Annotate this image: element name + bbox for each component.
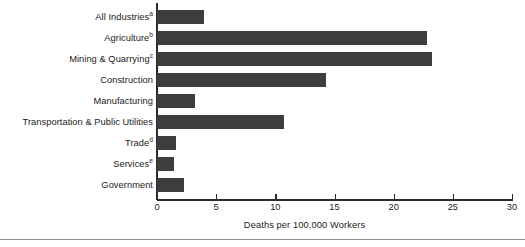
bar-chart-figure: All IndustriesaAgriculturebMining & Quar… [0,0,525,247]
x-tick-label: 30 [507,202,517,212]
x-tick-mark [512,194,513,200]
plot-area: All IndustriesaAgriculturebMining & Quar… [0,0,525,210]
category-label: Servicese [113,154,153,175]
bar-row: Agricultureb [0,28,525,49]
bar [157,178,184,192]
bar [157,115,284,129]
footnote-marker: d [149,136,153,143]
category-label: Government [101,175,153,196]
bar-row: Manufacturing [0,91,525,112]
x-tick-label: 20 [388,202,398,212]
category-label: Construction [100,70,153,91]
x-tick-label: 25 [448,202,458,212]
bar [157,94,195,108]
category-label: Manufacturing [93,91,153,112]
x-axis-title-text: Deaths per 100,000 Workers [244,220,365,230]
x-tick-label: 5 [214,202,219,212]
bar [157,136,176,150]
category-label: Traded [125,133,153,154]
category-label: Mining & Quarryingc [69,49,153,70]
bar [157,157,174,171]
bar-row: Traded [0,133,525,154]
x-tick-mark [157,194,158,200]
bar-row: Transportation & Public Utilities [0,112,525,133]
x-tick-mark [453,194,454,200]
bar [157,73,326,87]
bar-row: Servicese [0,154,525,175]
bar-row: Mining & Quarryingc [0,49,525,70]
bar-row: Government [0,175,525,196]
bar [157,10,204,24]
bar-row: Construction [0,70,525,91]
x-tick-mark [335,194,336,200]
x-tick-mark [394,194,395,200]
x-tick-mark [216,194,217,200]
x-tick-mark [275,194,276,200]
x-tick-label: 10 [270,202,280,212]
category-label: All Industriesa [95,7,153,28]
footnote-marker: b [149,31,153,38]
footnote-marker: a [149,10,153,17]
category-label: Agricultureb [104,28,153,49]
bar [157,31,427,45]
footnote-marker: e [149,157,153,164]
category-label: Transportation & Public Utilities [23,112,153,133]
x-tick-label: 0 [154,202,159,212]
footnote-marker: c [150,52,153,59]
x-axis-title: Deaths per 100,000 Workers [0,220,525,230]
bar-row: All Industriesa [0,7,525,28]
bottom-divider [0,239,525,240]
x-tick-label: 15 [329,202,339,212]
bar [157,52,432,66]
